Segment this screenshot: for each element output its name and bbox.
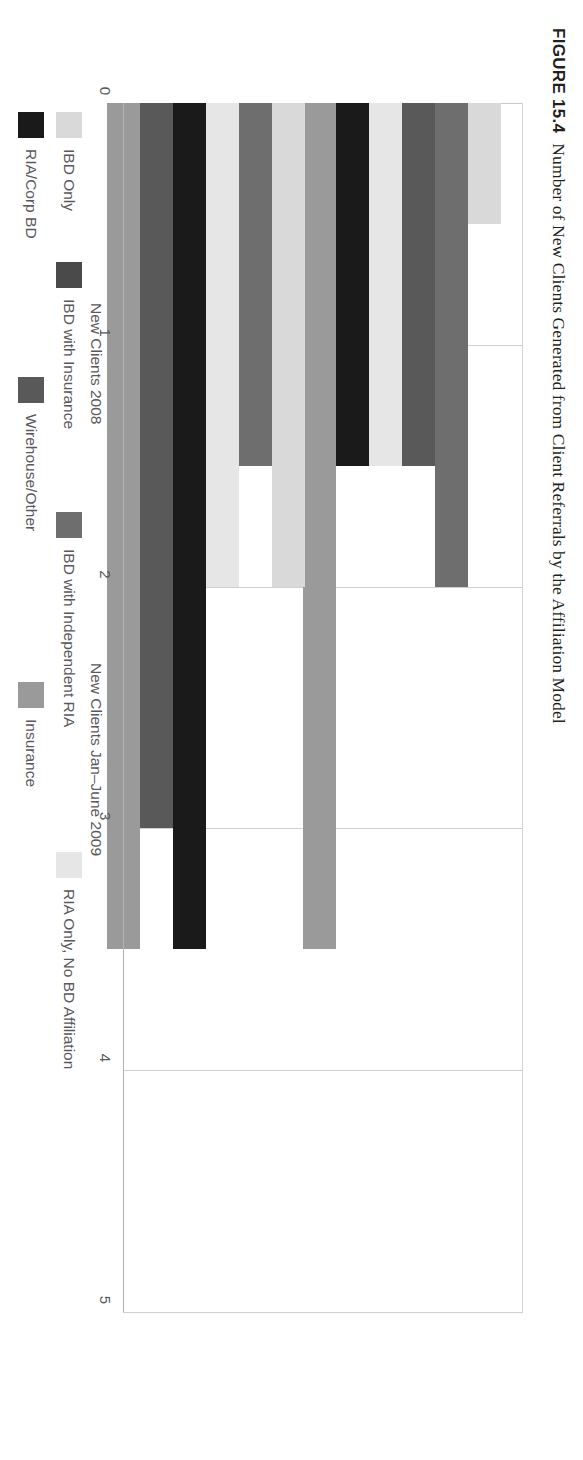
legend-swatch-ria-corp-bd — [18, 112, 44, 138]
chart-plot-area — [123, 103, 523, 1312]
figure-caption-text: Number of New Clients Generated from Cli… — [549, 143, 569, 723]
bar-2009-ibd-only — [468, 103, 501, 224]
chart-legend: IBD OnlyIBD with InsuranceIBD with Indep… — [6, 112, 86, 1342]
legend-item-ibd-with-insurance[interactable]: IBD with Insurance — [56, 262, 82, 429]
bar-2008-ibd-only — [272, 103, 305, 587]
legend-item-ria-corp-bd[interactable]: RIA/Corp BD — [18, 112, 44, 239]
group-label-2008: New Clients 2008 — [87, 303, 105, 424]
legend-swatch-insurance — [18, 682, 44, 708]
legend-label: RIA Only, No BD Affiliation — [60, 889, 78, 1069]
legend-label: IBD with Insurance — [60, 299, 78, 429]
legend-item-ibd-with-independent-ria[interactable]: IBD with Independent RIA — [56, 512, 82, 727]
bar-series-container — [123, 103, 523, 1312]
bar-2008-ria-only-no-bd-affiliation — [206, 103, 239, 587]
legend-swatch-ibd-only — [56, 112, 82, 138]
legend-label: IBD with Independent RIA — [60, 549, 78, 727]
legend-item-insurance[interactable]: Insurance — [18, 682, 44, 787]
tick-label-5: 5 — [97, 1278, 114, 1304]
figure-15-4: FIGURE 15.4Number of New Clients Generat… — [0, 0, 583, 1460]
tick-label-4: 4 — [97, 1036, 114, 1062]
legend-swatch-ria-only — [56, 852, 82, 878]
bar-2009-ibd-with-independent-ria — [435, 103, 468, 587]
legend-swatch-ibd-insurance — [56, 262, 82, 288]
legend-item-ibd-only[interactable]: IBD Only — [56, 112, 82, 211]
legend-label: RIA/Corp BD — [22, 149, 40, 239]
legend-item-ria-only-no-bd-affiliation[interactable]: RIA Only, No BD Affiliation — [56, 852, 82, 1069]
figure-caption: FIGURE 15.4Number of New Clients Generat… — [548, 28, 569, 724]
legend-row-1: IBD OnlyIBD with InsuranceIBD with Indep… — [52, 112, 86, 1342]
bar-2008-ria-corp-bd — [173, 103, 206, 949]
figure-number: FIGURE 15.4 — [549, 28, 568, 133]
legend-swatch-ibd-ria — [56, 512, 82, 538]
gridline-5 — [123, 1312, 523, 1313]
axis-baseline — [123, 103, 124, 1312]
legend-item-wirehouse-other[interactable]: Wirehouse/Other — [18, 377, 44, 531]
bar-2008-ibd-with-independent-ria — [239, 103, 272, 466]
tick-label-0: 0 — [97, 69, 114, 95]
legend-label: Wirehouse/Other — [22, 414, 40, 531]
figure-rotation-wrapper: FIGURE 15.4Number of New Clients Generat… — [0, 0, 583, 1460]
bar-2008-wirehouse-other — [140, 103, 173, 828]
bar-2009-ria-corp-bd — [336, 103, 369, 466]
bar-2009-wirehouse-other — [402, 103, 435, 466]
bar-2009-ria-only-no-bd-affiliation — [369, 103, 402, 466]
group-label-2009: New Clients Jan–June 2009 — [87, 663, 105, 856]
legend-swatch-wirehouse — [18, 377, 44, 403]
legend-label: IBD Only — [60, 149, 78, 211]
bar-2009-insurance — [303, 103, 336, 949]
legend-row-2: RIA/Corp BDWirehouse/OtherInsurance — [14, 112, 48, 1342]
legend-label: Insurance — [22, 719, 40, 787]
